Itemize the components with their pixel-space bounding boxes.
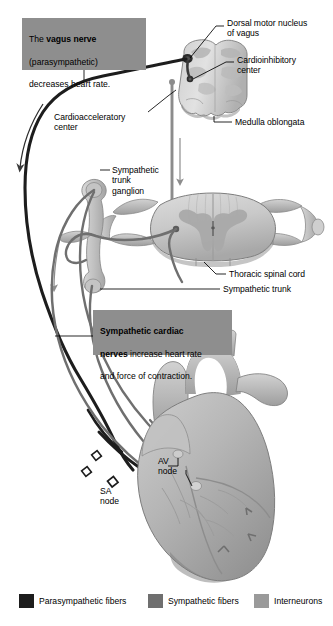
legend-label-sympathetic: Sympathetic fibers: [168, 596, 239, 606]
sympathetic-cardiac-nerves-callout: Sympathetic cardiac nerves increase hear…: [93, 310, 232, 355]
label-av-node: AV node: [158, 456, 177, 477]
callout-line-3: and force of contraction.: [100, 371, 192, 381]
legend-item-interneurons: Interneurons: [254, 594, 322, 608]
heart-graphic: [138, 326, 288, 583]
vagus-nerve-callout: The vagus nerve (parasympathetic) decrea…: [22, 18, 146, 70]
callout-bold-term-2: nerves: [100, 349, 128, 359]
legend-swatch-parasympathetic-icon: [19, 594, 34, 608]
callout-line-3: decreases heart rate.: [29, 79, 110, 89]
legend-swatch-sympathetic-icon: [148, 594, 163, 608]
legend: Parasympathetic fibers Sympathetic fiber…: [0, 588, 333, 614]
legend-item-parasympathetic: Parasympathetic fibers: [19, 594, 126, 608]
label-medulla-oblongata: Medulla oblongata: [235, 117, 304, 127]
callout-line-2: increase heart rate: [128, 349, 202, 359]
label-cardioinhibitory-center: Cardioinhibitory center: [237, 55, 296, 76]
legend-label-parasympathetic: Parasympathetic fibers: [39, 596, 126, 606]
callout-bold-term: Sympathetic cardiac: [100, 326, 184, 336]
legend-swatch-interneurons-icon: [254, 594, 269, 608]
figure-canvas: The vagus nerve (parasympathetic) decrea…: [0, 0, 333, 626]
label-thoracic-spinal-cord: Thoracic spinal cord: [229, 269, 305, 279]
label-sa-node: SA node: [100, 486, 119, 507]
label-cardioacceleratory-center: Cardioacceleratory center: [54, 112, 125, 133]
callout-line-2: (parasympathetic): [29, 57, 98, 67]
label-sympathetic-trunk-ganglion: Sympathetic trunk ganglion: [112, 165, 159, 196]
callout-bold-term: vagus nerve: [46, 34, 96, 44]
thoracic-spinal-cord-graphic: [96, 193, 324, 267]
legend-label-interneurons: Interneurons: [274, 596, 322, 606]
label-sympathetic-trunk: Sympathetic trunk: [223, 284, 291, 294]
callout-line-1: The vagus nerve: [29, 34, 96, 44]
legend-item-sympathetic: Sympathetic fibers: [148, 594, 239, 608]
label-dorsal-motor-nucleus: Dorsal motor nucleus of vagus: [227, 18, 307, 39]
